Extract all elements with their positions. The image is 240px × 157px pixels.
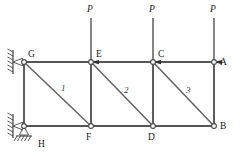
joint-f (89, 124, 94, 129)
node-label-c: C (158, 50, 164, 60)
member-diagonal-2-ed (91, 62, 153, 126)
member-diagonal-1-gf (24, 62, 91, 126)
joint-c (151, 60, 156, 65)
node-label-f: F (86, 133, 91, 143)
node-label-g: G (28, 50, 35, 60)
joint-d (151, 124, 156, 129)
truss-drawing-canvas (0, 0, 240, 157)
node-label-b: B (220, 122, 226, 132)
load-label-c: P (149, 5, 155, 15)
node-label-d: D (148, 133, 155, 143)
member-diagonal-3-cb (153, 62, 214, 126)
member-label-3: 3 (186, 86, 191, 95)
joint-e (89, 60, 94, 65)
node-label-e: E (96, 50, 102, 60)
load-arrows-group (91, 18, 214, 62)
truss-figure: G E C A H F D B 1 2 3 P P P (0, 0, 240, 157)
load-label-e: P (87, 5, 93, 15)
load-label-a: P (210, 5, 216, 15)
node-label-h: H (38, 140, 45, 150)
joint-g (22, 60, 27, 65)
joint-a (212, 60, 217, 65)
joint-b (212, 124, 217, 129)
node-label-a: A (220, 58, 227, 68)
joint-h (22, 124, 27, 129)
member-label-2: 2 (124, 86, 129, 95)
wall-support-g-icon (8, 49, 23, 74)
member-label-1: 1 (61, 84, 66, 93)
